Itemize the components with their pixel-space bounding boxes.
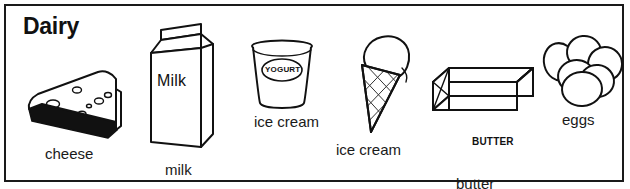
item-yogurt[interactable]: YOGURT ice cream — [246, 38, 318, 110]
yogurt-cup-icon — [246, 38, 318, 110]
item-eggs[interactable]: eggs — [540, 34, 624, 112]
caption-eggs: eggs — [562, 112, 595, 127]
caption-yogurt: ice cream — [254, 114, 319, 129]
caption-milk: milk — [165, 162, 192, 177]
butter-stick-icon — [430, 63, 536, 119]
caption-ice-cream: ice cream — [336, 142, 401, 157]
item-butter[interactable]: BUTTER butter — [430, 63, 536, 119]
milk-carton-text: Milk — [157, 72, 186, 90]
page-title: Dairy — [23, 15, 79, 38]
caption-butter: butter — [456, 176, 494, 188]
butter-label-text: BUTTER — [472, 136, 514, 147]
eggs-cluster-icon — [540, 34, 624, 112]
milk-carton-icon — [145, 20, 219, 160]
item-ice-cream[interactable]: ice cream — [344, 32, 428, 138]
cheese-wedge-icon — [20, 64, 132, 142]
ice-cream-cone-icon — [344, 32, 428, 138]
item-milk[interactable]: Milk milk — [145, 20, 219, 160]
caption-cheese: cheese — [45, 146, 93, 161]
dairy-poster: Dairy cheese — [4, 4, 624, 182]
item-cheese[interactable]: cheese — [20, 64, 132, 142]
yogurt-label-text: YOGURT — [265, 65, 300, 74]
